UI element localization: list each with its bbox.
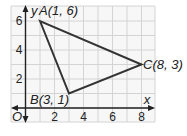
svg-text:4: 4 xyxy=(16,43,23,57)
svg-text:2: 2 xyxy=(16,72,23,86)
y-tick-6: 6 xyxy=(16,14,23,28)
y-tick-4: 4 xyxy=(16,43,23,57)
x-tick-4: 4 xyxy=(80,110,87,124)
svg-text:8: 8 xyxy=(138,110,145,124)
x-tick-8: 8 xyxy=(138,110,145,124)
x-tick-6: 6 xyxy=(109,110,116,124)
point-a-label: A(1, 6) xyxy=(38,3,78,18)
svg-text:6: 6 xyxy=(109,110,116,124)
x-axis-label: x xyxy=(143,92,151,107)
y-tick-2: 2 xyxy=(16,72,23,86)
svg-text:O: O xyxy=(12,109,22,124)
x-tick-2: 2 xyxy=(51,110,58,124)
svg-text:A(1, 6): A(1, 6) xyxy=(38,3,78,18)
svg-text:2: 2 xyxy=(51,110,58,124)
svg-text:6: 6 xyxy=(16,14,23,28)
origin-label: O xyxy=(12,109,22,124)
coordinate-plane: 2 4 6 8 2 4 6 O x y A(1, 6) B(3, 1) C(8,… xyxy=(0,0,187,136)
point-b-label: B(3, 1) xyxy=(30,92,69,107)
svg-text:x: x xyxy=(143,92,151,107)
svg-text:4: 4 xyxy=(80,110,87,124)
svg-text:B(3, 1): B(3, 1) xyxy=(30,92,69,107)
point-c-label: C(8, 3) xyxy=(143,57,183,72)
svg-text:C(8, 3): C(8, 3) xyxy=(143,57,183,72)
